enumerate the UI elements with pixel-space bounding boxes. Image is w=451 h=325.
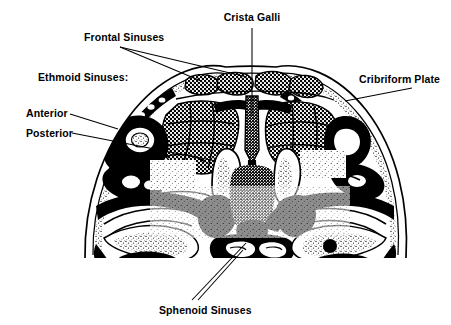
label-crista-galli: Crista Galli bbox=[224, 11, 281, 23]
leader-cribriform-plate bbox=[345, 88, 412, 101]
skull-section-illustration: Frontal Sinuses Ethmoid Sinuses: Anterio… bbox=[0, 0, 451, 325]
label-frontal-sinuses: Frontal Sinuses bbox=[84, 31, 164, 43]
leader-anterior bbox=[70, 114, 118, 129]
label-posterior: Posterior bbox=[26, 127, 73, 139]
skull-base-processes bbox=[182, 260, 318, 304]
anatomical-figure: Frontal Sinuses Ethmoid Sinuses: Anterio… bbox=[0, 0, 451, 325]
label-ethmoid-sinuses: Ethmoid Sinuses: bbox=[38, 71, 128, 83]
leader-frontal-sinuses-1 bbox=[120, 47, 201, 81]
label-anterior: Anterior bbox=[26, 107, 68, 119]
sphenoid-sinuses-region bbox=[210, 234, 295, 268]
label-sphenoid-sinuses: Sphenoid Sinuses bbox=[159, 304, 252, 316]
label-cribriform-plate: Cribriform Plate bbox=[359, 73, 440, 85]
